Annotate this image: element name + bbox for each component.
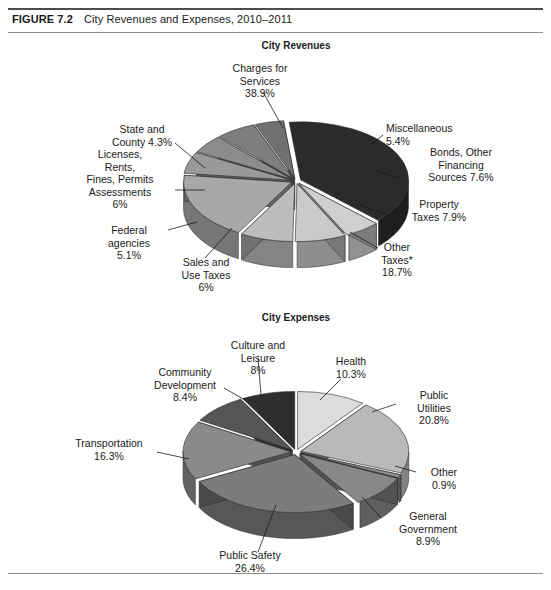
label-sales-and-use-taxes: Sales and Use Taxes 6% — [165, 256, 247, 294]
label-bonds-other-financing: Bonds, Other Financing Sources 7.6% — [405, 146, 517, 184]
leader-line — [168, 222, 197, 230]
label-federal-agencies: Federal agencies 5.1% — [88, 224, 170, 262]
label-transportation: Transportation 16.3% — [57, 437, 161, 462]
figure-header-rule — [8, 32, 543, 33]
label-property-taxes: Property Taxes 7.9% — [394, 198, 484, 223]
label-public-utilities: Public Utilities 20.8% — [398, 389, 470, 427]
label-health: Health 10.3% — [320, 355, 382, 380]
leader-line — [205, 228, 232, 258]
pie-slice — [255, 121, 295, 179]
label-charges-for-services: Charges for Services 38.9% — [205, 62, 315, 100]
leader-line — [320, 379, 341, 400]
leader-line — [258, 505, 276, 552]
pie-slice — [301, 453, 401, 478]
pie-slice — [184, 153, 291, 181]
pie-slice — [242, 184, 295, 242]
leader-line — [157, 452, 189, 459]
label-state-and-county: State and County 4.3% — [96, 123, 188, 148]
pie-slice — [298, 391, 363, 449]
pie-slice — [243, 391, 295, 449]
figure-top-rule — [8, 8, 543, 10]
pie-slice — [299, 183, 376, 235]
leader-line — [360, 205, 390, 216]
chart-title-expenses: City Expenses — [196, 312, 396, 323]
pie-slice — [301, 405, 409, 473]
figure-caption: FIGURE 7.2City Revenues and Expenses, 20… — [12, 13, 292, 25]
label-other-expense: Other 0.9% — [417, 466, 471, 491]
pie-slice — [300, 454, 398, 503]
pie-slice — [197, 137, 292, 179]
leader-line — [362, 497, 381, 518]
label-general-government: General Government 8.9% — [381, 510, 475, 548]
leader-line — [367, 135, 383, 148]
pie-slice — [220, 125, 294, 179]
pie-slice — [199, 455, 353, 513]
label-miscellaneous: Miscellaneous 5.4% — [386, 122, 506, 147]
label-community-development: Community Development 8.4% — [134, 366, 236, 404]
label-public-safety: Public Safety 26.4% — [203, 549, 297, 574]
pie-slice — [183, 422, 291, 479]
pie-slice — [295, 184, 345, 242]
leader-line — [372, 170, 400, 178]
label-licenses-rents-fines: Licenses, Rents, Fines, Permits Assessme… — [60, 148, 180, 211]
leader-line — [395, 466, 416, 472]
figure-number: FIGURE 7.2 — [12, 13, 73, 25]
leader-line — [372, 404, 396, 412]
label-other-taxes: Other Taxes* 18.7% — [366, 241, 428, 279]
pie-slice — [200, 399, 293, 450]
chart-title-revenues: City Revenues — [196, 40, 396, 51]
figure-title: City Revenues and Expenses, 2010–2011 — [84, 13, 292, 25]
pie-slice — [184, 175, 292, 232]
